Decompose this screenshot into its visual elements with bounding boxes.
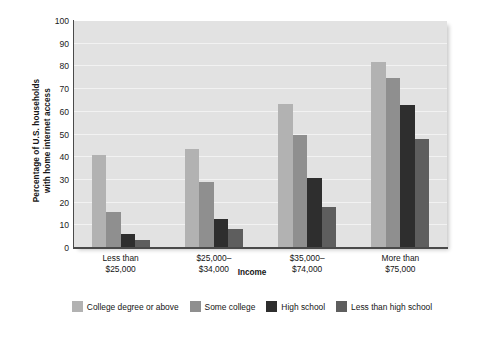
legend-item[interactable]: Less than high school <box>336 301 432 312</box>
bar[interactable] <box>199 182 214 248</box>
y-axis-tick-label: 80 <box>59 61 74 71</box>
plot-area <box>74 21 447 248</box>
y-axis-tick-label: 30 <box>59 175 74 185</box>
bar[interactable] <box>278 104 293 248</box>
legend-item[interactable]: College degree or above <box>72 301 179 312</box>
bar[interactable] <box>228 229 243 248</box>
bar[interactable] <box>371 62 386 248</box>
y-axis-tick-label: 90 <box>59 39 74 49</box>
x-axis-line <box>73 247 448 249</box>
bar[interactable] <box>92 155 107 248</box>
plot-inner <box>74 21 447 248</box>
legend-label: High school <box>281 302 325 312</box>
bar[interactable] <box>293 135 308 249</box>
chart-figure: Percentage of U.S. households with home … <box>0 0 504 339</box>
y-axis-title-line-2: with home internet access <box>42 31 53 251</box>
y-axis-tick-label: 0 <box>64 243 74 253</box>
y-axis-tick-label: 70 <box>59 84 74 94</box>
bar-group <box>371 21 429 248</box>
bar[interactable] <box>415 139 430 248</box>
legend-label: College degree or above <box>87 302 179 312</box>
chart-legend: College degree or aboveSome collegeHigh … <box>0 301 504 312</box>
bar[interactable] <box>322 207 337 248</box>
legend-label: Less than high school <box>351 302 432 312</box>
y-axis-title-line-1: Percentage of U.S. households <box>32 31 43 251</box>
y-axis-title: Percentage of U.S. households with home … <box>32 31 53 251</box>
bar[interactable] <box>214 219 229 249</box>
y-axis-tick-label: 20 <box>59 198 74 208</box>
y-axis-tick-label: 100 <box>55 16 74 26</box>
bar-group <box>278 21 336 248</box>
y-axis-tick-label: 60 <box>59 107 74 117</box>
legend-swatch-icon <box>266 301 277 312</box>
legend-item[interactable]: Some college <box>190 301 256 312</box>
y-axis-tick-label: 50 <box>59 130 74 140</box>
legend-label: Some college <box>205 302 256 312</box>
bar[interactable] <box>106 212 121 248</box>
y-axis-tick-label: 40 <box>59 152 74 162</box>
bar[interactable] <box>121 234 136 248</box>
legend-item[interactable]: High school <box>266 301 325 312</box>
y-axis-tick-label: 10 <box>59 220 74 230</box>
x-axis-title: Income <box>0 268 504 277</box>
bar[interactable] <box>307 178 322 248</box>
legend-swatch-icon <box>190 301 201 312</box>
legend-swatch-icon <box>72 301 83 312</box>
bar-group <box>185 21 243 248</box>
bar[interactable] <box>400 105 415 248</box>
bar[interactable] <box>386 78 401 248</box>
bar[interactable] <box>185 149 200 248</box>
legend-swatch-icon <box>336 301 347 312</box>
bar-group <box>92 21 150 248</box>
